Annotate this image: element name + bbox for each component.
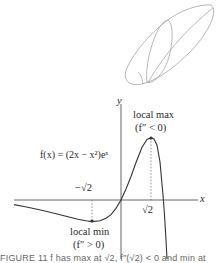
y-axis-label: y	[117, 96, 122, 107]
figure-caption: FIGURE 11 f has max at √2, f″(√2) < 0 an…	[0, 253, 206, 263]
local-min-title: local min	[70, 227, 109, 238]
x-axis-label: x	[200, 194, 205, 205]
local-min-point	[90, 219, 93, 222]
local-min-condition: (f″ > 0)	[73, 240, 104, 251]
sqrt2-tick-label: √2	[142, 205, 153, 216]
neg-sqrt2-tick-label: −√2	[75, 183, 92, 194]
local-max-title: local max	[133, 110, 174, 121]
function-label: f(x) = (2x − x²)eˣ	[40, 150, 108, 160]
local-max-point	[149, 136, 152, 139]
local-max-condition: (f″ < 0)	[135, 123, 166, 134]
